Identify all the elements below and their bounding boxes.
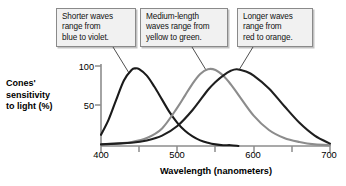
y-tick-marks (95, 66, 101, 105)
plot-area (0, 0, 346, 186)
cone-sensitivity-figure: Shorter waves range from blue to violet.… (0, 0, 346, 186)
curve-medium-wavelength (101, 69, 330, 145)
x-tick-marks (101, 146, 330, 152)
curve-long-wavelength (101, 69, 330, 144)
